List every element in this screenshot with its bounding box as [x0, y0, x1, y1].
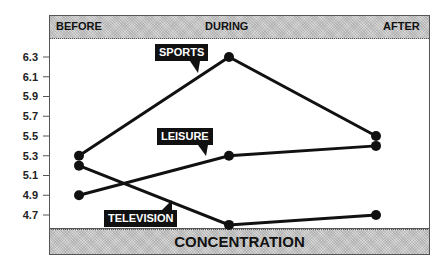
data-point-marker — [371, 141, 381, 151]
series-label-sports: SPORTS — [155, 44, 208, 61]
data-point-marker — [224, 151, 234, 161]
data-point-marker — [74, 190, 84, 200]
data-point-marker — [371, 210, 381, 220]
series-label-leisure: LEISURE — [157, 128, 213, 145]
series-line — [79, 57, 376, 156]
data-point-marker — [224, 52, 234, 62]
data-point-marker — [371, 131, 381, 141]
data-point-marker — [74, 161, 84, 171]
x-axis-title: CONCENTRATION — [49, 233, 430, 250]
data-point-marker — [74, 151, 84, 161]
data-point-marker — [224, 220, 234, 230]
series-label-television: TELEVISION — [104, 210, 177, 227]
